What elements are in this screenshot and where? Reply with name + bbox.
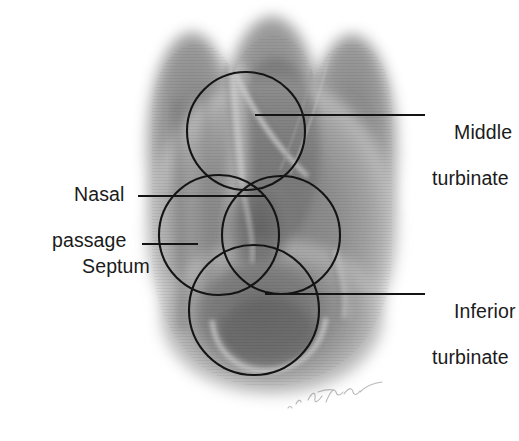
label-inferior-turbinate: Inferior turbinate xyxy=(432,277,516,415)
label-inferior-turbinate-line1: Inferior xyxy=(454,300,516,322)
label-septum-line1: Septum xyxy=(82,255,150,277)
label-middle-turbinate-line2: turbinate xyxy=(432,167,512,190)
figure-root: Middle turbinate Inferior turbinate Nasa… xyxy=(0,0,519,441)
label-inferior-turbinate-line2: turbinate xyxy=(432,346,516,369)
label-middle-turbinate: Middle turbinate xyxy=(432,98,512,236)
label-middle-turbinate-line1: Middle xyxy=(454,121,512,143)
label-septum: Septum xyxy=(60,232,150,301)
label-nasal-passage-line1: Nasal xyxy=(74,183,124,205)
